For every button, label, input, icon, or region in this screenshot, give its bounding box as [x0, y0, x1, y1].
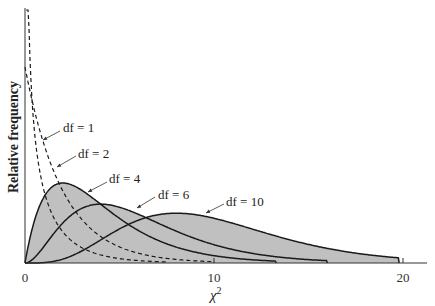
annotation-label: df = 4 [109, 171, 141, 186]
annotation-label: df = 6 [158, 187, 190, 202]
x-tick-labels: 0 10 20 [22, 270, 410, 285]
x-tick-label-10: 10 [208, 270, 221, 285]
x-axis-label-sup: 2 [217, 285, 222, 296]
annotation-label: df = 2 [78, 146, 109, 161]
annotation-label: df = 1 [63, 120, 94, 135]
y-axis-label: Relative frequency [6, 81, 21, 193]
x-axis-label: χ2 [208, 285, 222, 303]
chi-square-chart: 0 10 20 χ2 Relative frequency df = 1df =… [0, 0, 435, 306]
x-tick-label-20: 20 [397, 270, 410, 285]
annotation-label: df = 10 [226, 194, 264, 209]
x-tick-label-0: 0 [22, 270, 29, 285]
